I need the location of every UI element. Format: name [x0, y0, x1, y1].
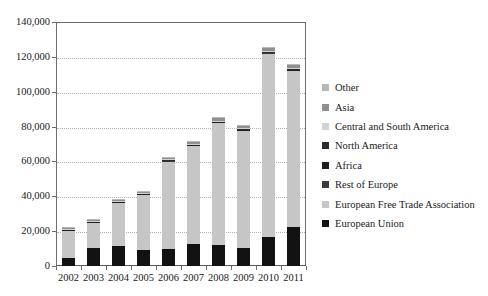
bar-segment — [212, 117, 225, 118]
x-axis-tick — [131, 266, 132, 270]
y-axis-tick — [52, 92, 56, 93]
bar-segment — [112, 201, 125, 202]
bar-segment — [62, 258, 75, 266]
bar-segment — [212, 245, 225, 266]
legend-label: Rest of Europe — [335, 179, 398, 190]
bar-segment — [287, 65, 300, 68]
legend-label: Africa — [335, 160, 362, 171]
legend-item[interactable]: Other — [322, 78, 475, 97]
y-axis-tick — [52, 127, 56, 128]
legend-swatch-icon — [322, 201, 329, 208]
bar-segment — [162, 161, 175, 249]
y-axis-tick — [52, 22, 56, 23]
legend-label: Central and South America — [335, 121, 449, 132]
y-axis-label: 0 — [0, 261, 50, 272]
x-axis-tick — [81, 266, 82, 270]
bar-segment — [212, 121, 225, 122]
legend-item[interactable]: Africa — [322, 156, 475, 175]
bar-segment — [87, 220, 100, 222]
bar-segment — [212, 123, 225, 245]
legend-swatch-icon — [322, 181, 329, 188]
legend-swatch-icon — [322, 142, 329, 149]
y-axis-tick — [52, 161, 56, 162]
bar-segment — [112, 246, 125, 266]
bar-segment — [187, 146, 200, 245]
legend-swatch-icon — [322, 104, 329, 111]
legend-swatch-icon — [322, 123, 329, 130]
x-axis-tick — [206, 266, 207, 270]
bar-segment — [187, 141, 200, 142]
legend-label: European Union — [335, 218, 404, 229]
bar-segment — [112, 199, 125, 201]
legend-swatch-icon — [322, 220, 329, 227]
x-axis-tick — [256, 266, 257, 270]
x-axis-tick — [156, 266, 157, 270]
stacked-bar-chart: 020,00040,00060,00080,000100,000120,0001… — [0, 0, 488, 296]
bar-2009 — [237, 22, 250, 266]
bar-segment — [237, 128, 250, 129]
x-axis-tick — [106, 266, 107, 270]
bar-segment — [112, 203, 125, 246]
bar-segment — [137, 195, 150, 250]
bar-segment — [212, 118, 225, 120]
chart-legend: OtherAsiaCentral and South AmericaNorth … — [322, 78, 475, 233]
legend-label: Other — [335, 82, 359, 93]
bar-2002 — [62, 22, 75, 266]
bar-segment — [262, 54, 275, 237]
bar-segment — [162, 157, 175, 158]
y-axis-label: 40,000 — [0, 191, 50, 202]
x-axis-label: 2011 — [274, 272, 314, 284]
bar-segment — [137, 193, 150, 194]
bar-segment — [87, 222, 100, 248]
y-axis-label: 120,000 — [0, 52, 50, 63]
bar-segment — [262, 47, 275, 48]
bar-segment — [162, 159, 175, 160]
y-axis-tick — [52, 231, 56, 232]
bar-segment — [237, 248, 250, 266]
bar-segment — [112, 199, 125, 200]
bar-2004 — [112, 22, 125, 266]
bar-segment — [287, 71, 300, 227]
bar-segment — [162, 157, 175, 159]
y-axis-label: 20,000 — [0, 226, 50, 237]
x-axis-tick — [56, 266, 57, 270]
y-axis-label: 80,000 — [0, 122, 50, 133]
bar-2010 — [262, 22, 275, 266]
legend-item[interactable]: Central and South America — [322, 117, 475, 136]
bar-2007 — [187, 22, 200, 266]
bar-segment — [87, 221, 100, 222]
legend-swatch-icon — [322, 84, 329, 91]
bar-segment — [287, 64, 300, 65]
bar-segment — [87, 219, 100, 220]
bar-segment — [237, 131, 250, 248]
bar-segment — [262, 52, 275, 53]
legend-label: North America — [335, 140, 398, 151]
bar-segment — [62, 227, 75, 228]
bar-2005 — [137, 22, 150, 266]
y-axis-tick — [52, 196, 56, 197]
bar-segment — [262, 237, 275, 266]
y-axis-label: 140,000 — [0, 17, 50, 28]
legend-item[interactable]: European Free Trade Association — [322, 194, 475, 213]
legend-item[interactable]: European Union — [322, 214, 475, 233]
legend-label: European Free Trade Association — [335, 199, 475, 210]
bar-segment — [62, 229, 75, 230]
bar-2003 — [87, 22, 100, 266]
bar-2006 — [162, 22, 175, 266]
legend-item[interactable]: Rest of Europe — [322, 175, 475, 194]
bar-segment — [262, 48, 275, 51]
x-axis-tick — [181, 266, 182, 270]
bar-segment — [237, 126, 250, 128]
legend-swatch-icon — [322, 162, 329, 169]
bar-segment — [187, 141, 200, 143]
y-axis-tick — [52, 57, 56, 58]
bar-segment — [87, 248, 100, 266]
bar-segment — [187, 144, 200, 145]
legend-item[interactable]: North America — [322, 136, 475, 155]
bar-segment — [262, 51, 275, 52]
bar-2011 — [287, 22, 300, 266]
bar-segment — [137, 191, 150, 192]
legend-item[interactable]: Asia — [322, 97, 475, 116]
y-axis-label: 100,000 — [0, 87, 50, 98]
bar-2008 — [212, 22, 225, 266]
